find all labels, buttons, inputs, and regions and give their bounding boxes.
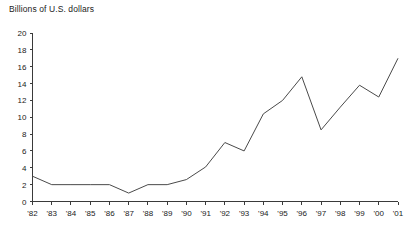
x-tick-label: '97	[316, 209, 327, 218]
x-tick-label: '98	[335, 209, 346, 218]
y-tick-label: 16	[18, 63, 27, 72]
x-tick-label: '96	[297, 209, 308, 218]
x-tick-label: '94	[258, 209, 269, 218]
x-tick-label: '88	[143, 209, 154, 218]
x-tick-label: '99	[354, 209, 365, 218]
x-tick-label: '91	[200, 209, 211, 218]
y-tick-label: 6	[22, 147, 27, 156]
chart-figure: Billions of U.S. dollars 024681012141618…	[0, 0, 408, 236]
x-tick-label: '90	[181, 209, 192, 218]
x-axis: '82'83'84'85'86'87'88'89'90'91'92'93'94'…	[27, 202, 403, 218]
x-tick-label: '89	[162, 209, 173, 218]
x-tick-label: '93	[239, 209, 250, 218]
line-chart-plot: 02468101214161820 '82'83'84'85'86'87'88'…	[0, 0, 408, 236]
data-series-line	[33, 58, 399, 193]
y-axis: 02468101214161820	[18, 29, 33, 207]
y-tick-label: 2	[22, 181, 27, 190]
x-tick-label: '84	[66, 209, 77, 218]
y-tick-label: 10	[18, 113, 27, 122]
x-tick-label: '95	[277, 209, 288, 218]
y-tick-label: 12	[18, 96, 27, 105]
x-tick-label: '85	[85, 209, 96, 218]
y-tick-label: 4	[22, 164, 27, 173]
x-tick-label: '82	[27, 209, 38, 218]
y-tick-label: 0	[22, 198, 27, 207]
x-tick-label: '01	[393, 209, 404, 218]
x-tick-label: '83	[47, 209, 58, 218]
y-tick-label: 14	[18, 80, 27, 89]
x-tick-label: '00	[374, 209, 385, 218]
y-tick-label: 18	[18, 46, 27, 55]
x-tick-label: '86	[104, 209, 115, 218]
x-tick-label: '92	[220, 209, 231, 218]
y-tick-label: 20	[18, 29, 27, 38]
y-tick-label: 8	[22, 130, 27, 139]
x-tick-label: '87	[123, 209, 134, 218]
